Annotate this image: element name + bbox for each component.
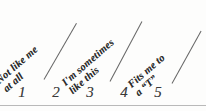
anchor-pointer-rule-3 [172, 31, 202, 84]
scale-option-3[interactable]: 3 [83, 84, 97, 101]
scale-option-4[interactable]: 4 [117, 84, 131, 101]
likert-scale-figure: Not like me at all I'm sometimes like th… [0, 0, 206, 111]
bottom-divider [0, 105, 206, 106]
scale-option-1[interactable]: 1 [15, 84, 29, 101]
scale-number-row: 1 2 3 4 5 [0, 84, 206, 104]
scale-option-5[interactable]: 5 [151, 84, 165, 101]
scale-option-2[interactable]: 2 [49, 84, 63, 101]
